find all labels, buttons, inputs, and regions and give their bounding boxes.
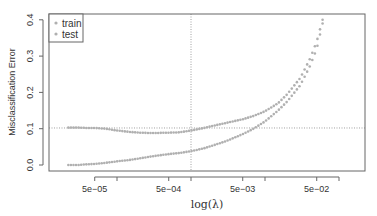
data-point-train — [142, 157, 145, 160]
y-axis-title: Misclassification Error — [7, 48, 17, 136]
data-point-train — [90, 163, 93, 166]
data-point-train — [308, 65, 311, 68]
data-point-test — [108, 128, 111, 131]
data-point-test — [95, 127, 98, 130]
data-point-train — [188, 150, 191, 153]
x-axis: 5e−055e−045e−035e−02 — [82, 177, 339, 194]
data-point-train — [159, 154, 162, 157]
data-point-train — [70, 164, 73, 167]
data-point-train — [216, 143, 219, 146]
data-point-test — [255, 114, 258, 117]
data-point-test — [100, 127, 103, 130]
data-point-test — [180, 131, 183, 134]
data-point-test — [306, 63, 309, 66]
data-point-train — [311, 59, 314, 62]
data-point-test — [183, 130, 186, 133]
data-point-train — [152, 155, 155, 158]
data-point-test — [316, 38, 319, 41]
data-point-test — [219, 123, 222, 126]
data-point-test — [293, 84, 296, 87]
data-point-train — [116, 160, 119, 163]
data-point-test — [198, 128, 201, 131]
data-point-test — [195, 128, 198, 131]
data-point-test — [290, 87, 293, 90]
data-point-train — [139, 157, 142, 160]
data-point-test — [303, 68, 306, 71]
data-point-train — [296, 88, 299, 91]
data-point-train — [131, 158, 134, 161]
data-point-test — [90, 127, 93, 130]
data-point-train — [290, 95, 293, 98]
data-point-test — [167, 131, 170, 134]
data-point-test — [285, 94, 288, 97]
data-point-test — [93, 127, 96, 130]
data-point-train — [288, 98, 291, 101]
x-tick-label: 5e−02 — [304, 184, 329, 194]
data-point-train — [149, 155, 152, 158]
data-point-train — [247, 130, 250, 133]
data-point-train — [226, 139, 229, 142]
data-points — [67, 19, 324, 167]
data-point-test — [298, 78, 301, 81]
data-point-train — [229, 138, 232, 141]
data-point-train — [75, 164, 78, 167]
y-tick-label: 0.3 — [25, 50, 35, 63]
data-point-test — [134, 131, 137, 134]
data-point-test — [159, 132, 162, 135]
data-point-train — [303, 75, 306, 78]
data-point-train — [106, 161, 109, 164]
data-point-train — [244, 131, 247, 134]
data-point-test — [154, 132, 157, 135]
x-tick-label: 5e−03 — [230, 184, 255, 194]
data-point-test — [321, 19, 324, 22]
data-point-train — [265, 119, 268, 122]
data-point-test — [283, 96, 286, 99]
data-point-test — [280, 99, 283, 102]
legend-marker-test — [54, 32, 57, 35]
data-point-test — [188, 130, 191, 133]
data-point-test — [67, 126, 70, 129]
legend-marker-train — [54, 21, 57, 24]
data-point-test — [296, 81, 299, 84]
data-point-test — [124, 130, 127, 133]
data-point-train — [113, 160, 116, 163]
data-point-train — [77, 164, 80, 167]
data-point-test — [229, 121, 232, 124]
data-point-train — [321, 22, 324, 25]
data-point-test — [103, 127, 106, 130]
data-point-test — [201, 127, 204, 130]
data-point-train — [80, 163, 83, 166]
data-point-test — [265, 109, 268, 112]
data-point-train — [172, 152, 175, 155]
data-point-train — [144, 156, 147, 159]
y-tick-label: 0.4 — [25, 14, 35, 27]
x-tick-label: 5e−04 — [156, 184, 181, 194]
data-point-train — [283, 103, 286, 106]
data-point-train — [270, 115, 273, 118]
data-point-train — [219, 142, 222, 145]
data-point-train — [285, 101, 288, 104]
data-point-train — [183, 151, 186, 154]
data-point-test — [152, 132, 155, 135]
data-point-test — [136, 131, 139, 134]
data-point-train — [167, 153, 170, 156]
data-point-test — [77, 126, 80, 129]
data-point-test — [260, 112, 263, 115]
data-point-test — [70, 126, 73, 129]
data-point-test — [111, 128, 114, 131]
data-point-test — [301, 73, 304, 76]
data-point-train — [154, 155, 157, 158]
data-point-test — [116, 129, 119, 132]
data-point-test — [275, 103, 278, 106]
data-point-train — [260, 123, 263, 126]
data-point-train — [239, 134, 242, 137]
data-point-train — [301, 80, 304, 83]
data-point-train — [85, 163, 88, 166]
data-point-train — [121, 159, 124, 162]
data-point-test — [121, 130, 124, 133]
data-point-test — [131, 131, 134, 134]
data-point-train — [293, 91, 296, 94]
y-axis: 0.00.10.20.30.4 — [25, 14, 43, 172]
data-point-test — [314, 45, 317, 48]
data-point-train — [124, 159, 127, 162]
